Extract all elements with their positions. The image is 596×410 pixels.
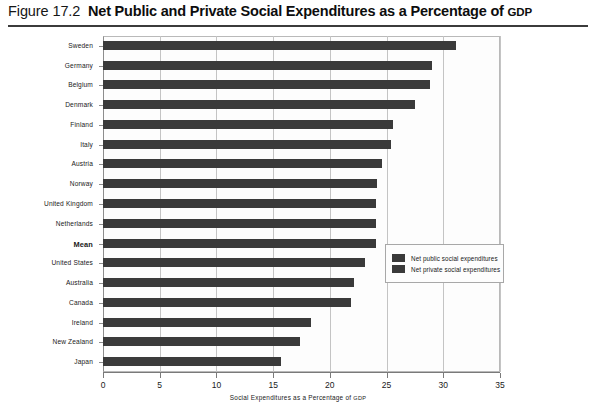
bar-japan [103, 357, 281, 366]
bar-row [103, 175, 500, 193]
category-label-ireland: Ireland [72, 319, 93, 326]
bar-united-kingdom [103, 199, 376, 208]
bar-row [103, 136, 500, 154]
bar-chart: SwedenGermanyBelgiumDenmarkFinlandItalyA… [0, 28, 596, 410]
x-tick-label-15: 15 [258, 380, 288, 390]
bar-new-zealand [103, 337, 300, 346]
category-label-canada: Canada [69, 299, 93, 306]
x-tick [443, 373, 444, 378]
legend-swatch-icon [392, 265, 405, 273]
category-label-netherlands: Netherlands [56, 220, 93, 227]
legend-item-2: Net private social expenditures [392, 265, 498, 273]
x-tick-label-30: 30 [428, 380, 458, 390]
legend-label: Net private social expenditures [411, 266, 500, 273]
bar-norway [103, 179, 377, 188]
category-label-sweden: Sweden [68, 42, 93, 49]
bar-row [103, 294, 500, 312]
x-axis-title-gdp: GDP [353, 395, 366, 401]
x-tick [273, 373, 274, 378]
category-label-united-states: United States [51, 259, 93, 266]
x-tick-label-10: 10 [201, 380, 231, 390]
category-label-japan: Japan [74, 358, 93, 365]
bar-italy [103, 140, 391, 149]
category-label-finland: Finland [70, 121, 93, 128]
bar-row [103, 116, 500, 134]
bar-netherlands [103, 219, 376, 228]
header-rule [8, 25, 588, 27]
bar-sweden [103, 41, 456, 50]
bar-united-states [103, 258, 365, 267]
x-tick-label-25: 25 [372, 380, 402, 390]
x-tick [160, 373, 161, 378]
figure-number: Figure 17.2 [8, 3, 80, 19]
bar-row [103, 215, 500, 233]
bar-row [103, 195, 500, 213]
x-axis-title-main: Social Expenditures as a Percentage of [230, 394, 353, 401]
bar-row [103, 57, 500, 75]
bar-australia [103, 278, 354, 287]
legend-label: Net public social expenditures [411, 255, 498, 262]
bar-row [103, 353, 500, 371]
bar-belgium [103, 80, 430, 89]
x-tick-label-0: 0 [88, 380, 118, 390]
figure-title-gdp: GDP [508, 6, 532, 18]
bar-germany [103, 61, 432, 70]
bar-finland [103, 120, 393, 129]
category-label-denmark: Denmark [65, 101, 93, 108]
bars-layer [103, 36, 500, 372]
bar-row [103, 76, 500, 94]
x-tick-label-20: 20 [315, 380, 345, 390]
x-axis-title: Social Expenditures as a Percentage of G… [0, 394, 596, 401]
category-label-united-kingdom: United Kingdom [44, 200, 93, 207]
bar-ireland [103, 318, 311, 327]
x-tick [330, 373, 331, 378]
bar-row [103, 96, 500, 114]
legend-item-1: Net public social expenditures [392, 254, 498, 262]
category-label-germany: Germany [65, 62, 93, 69]
chart-legend: Net public social expendituresNet privat… [385, 244, 504, 283]
bar-austria [103, 159, 382, 168]
legend-swatch-icon [392, 254, 405, 262]
bar-denmark [103, 100, 415, 109]
bar-row [103, 314, 500, 332]
bar-row [103, 155, 500, 173]
x-axis-line [103, 372, 500, 373]
category-label-new-zealand: New Zealand [52, 338, 93, 345]
bar-mean [103, 239, 376, 248]
bar-row [103, 333, 500, 351]
x-tick [500, 373, 501, 378]
category-label-mean: Mean [74, 240, 94, 249]
x-tick [103, 373, 104, 378]
x-tick [387, 373, 388, 378]
bar-row [103, 37, 500, 55]
category-label-belgium: Belgium [68, 81, 93, 88]
figure-title: Net Public and Private Social Expenditur… [88, 3, 532, 19]
figure-header: Figure 17.2 Net Public and Private Socia… [0, 0, 596, 30]
x-tick-label-35: 35 [485, 380, 515, 390]
category-label-norway: Norway [70, 180, 93, 187]
figure-title-main: Net Public and Private Social Expenditur… [88, 3, 508, 19]
category-label-austria: Austria [71, 160, 93, 167]
gridline [500, 36, 501, 372]
x-tick [216, 373, 217, 378]
category-label-italy: Italy [80, 141, 93, 148]
x-tick-label-5: 5 [145, 380, 175, 390]
category-label-australia: Australia [66, 279, 93, 286]
bar-canada [103, 298, 351, 307]
category-axis: SwedenGermanyBelgiumDenmarkFinlandItalyA… [0, 36, 99, 372]
